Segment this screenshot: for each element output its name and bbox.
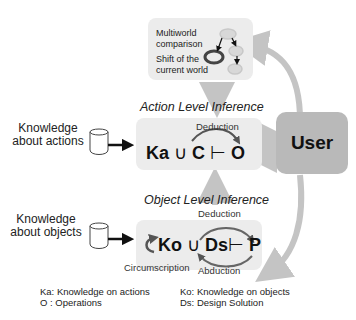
abduction-label: Abduction [198,265,240,276]
object-level-title: Object Level Inference [144,193,269,207]
turnstile-symbol: ⊢ [228,235,244,255]
circumscription-label: Circumscription [124,262,189,273]
legend-ds: Ds: Design Solution [180,297,263,308]
database-objects-icon [90,223,108,249]
object-formula: Ko ∪ Ds⊢ P [158,234,261,256]
union-symbol: ∪ [187,235,200,255]
union-symbol: ∪ [174,143,187,163]
knowledge-actions-label: Knowledge about actions [8,122,88,148]
action-formula: Ka ∪ C ⊢ O [146,142,245,164]
multiworld-label: Multiworld comparison [156,28,216,50]
action-level-title: Action Level Inference [140,100,264,114]
arrow-user-to-object [270,175,301,272]
ko-symbol: Ko [158,235,182,255]
o-symbol: O [231,143,245,163]
legend-o: O : Operations [40,297,102,308]
world-ellipse-mid [229,46,243,56]
shift-label: Shift of the current world [156,54,216,76]
c-symbol: C [192,143,205,163]
turnstile-symbol: ⊢ [210,143,226,163]
object-deduction-label: Deduction [198,208,241,219]
world-ellipse-top [220,29,236,39]
legend-ko: Ko: Knowledge on objects [180,286,290,297]
database-actions-icon [90,129,108,155]
legend-ka: Ka: Knowledge on actions [40,286,150,297]
world-ellipse-bottom [228,64,242,74]
knowledge-objects-label: Knowledge about objects [6,213,86,239]
action-deduction-label: Deduction [196,121,239,132]
p-symbol: P [249,235,261,255]
user-label: User [291,132,333,154]
ds-symbol: Ds [205,235,228,255]
user-box: User [276,112,348,174]
ka-symbol: Ka [146,143,169,163]
